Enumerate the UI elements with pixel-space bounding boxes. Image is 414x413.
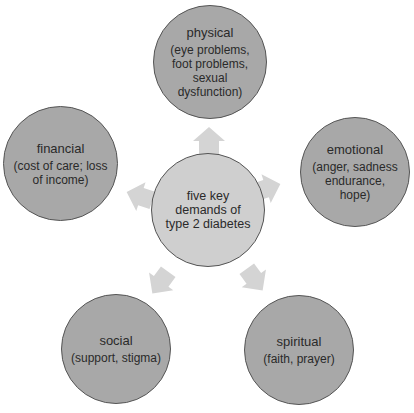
arrow-down-right-icon	[235, 260, 275, 299]
node-title: spiritual	[277, 334, 322, 349]
node-title: financial	[37, 141, 85, 156]
node-social: social (support, stigma)	[61, 294, 171, 404]
node-physical: physical (eye problems, foot problems, s…	[153, 5, 267, 119]
node-detail: (cost of care; loss of income)	[4, 159, 117, 187]
node-detail: (anger, sadness endurance, hope)	[301, 160, 409, 202]
node-detail: (eye problems, foot problems, sexual dys…	[154, 43, 266, 99]
node-emotional: emotional (anger, sadness endurance, hop…	[300, 117, 410, 227]
node-detail: (support, stigma)	[65, 351, 167, 365]
arrow-down-left-icon	[140, 263, 180, 302]
node-detail: (faith, prayer)	[257, 352, 340, 366]
node-title: emotional	[327, 142, 383, 157]
node-title: physical	[187, 25, 234, 40]
node-title: social	[99, 333, 132, 348]
node-center: five key demands of type 2 diabetes	[151, 153, 265, 267]
center-title: five key demands of type 2 diabetes	[152, 189, 264, 231]
diabetes-demands-diagram: physical (eye problems, foot problems, s…	[0, 0, 414, 413]
node-spiritual: spiritual (faith, prayer)	[244, 295, 354, 405]
node-financial: financial (cost of care; loss of income)	[3, 106, 118, 221]
arrow-up-icon	[193, 127, 225, 155]
